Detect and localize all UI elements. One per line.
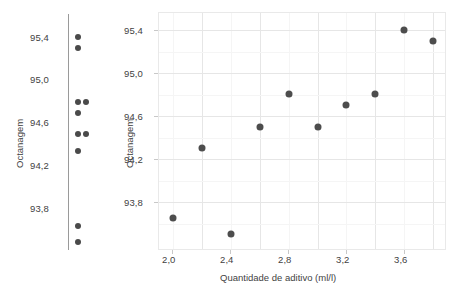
left-ytick-label-93-8: 93,8 bbox=[30, 203, 49, 214]
scatter-point bbox=[170, 215, 177, 222]
gridline-h-major bbox=[159, 116, 445, 117]
left-dot-field bbox=[69, 14, 112, 250]
gridline-h-major bbox=[159, 202, 445, 203]
right-ytick-label-94-6: 94,6 bbox=[124, 111, 143, 122]
left-dot bbox=[75, 239, 81, 245]
scatter-point bbox=[343, 102, 350, 109]
gridline-h-minor bbox=[159, 95, 445, 96]
right-xtick-label-2-0: 2,0 bbox=[162, 254, 176, 265]
left-dot bbox=[83, 99, 89, 105]
figure-root: Octanagem 95,4 95,0 94,6 94,2 93,8 bbox=[0, 0, 459, 293]
left-dot bbox=[75, 45, 81, 51]
right-xtick-label-2-8: 2,8 bbox=[278, 254, 292, 265]
right-xtick-label-3-6: 3,6 bbox=[394, 254, 408, 265]
right-ytick-label-94-2: 94,2 bbox=[124, 154, 143, 165]
gridline-h-major bbox=[159, 159, 445, 160]
left-dotplot-panel: Octanagem 95,4 95,0 94,6 94,2 93,8 bbox=[0, 0, 112, 293]
left-ytick-label-95-0: 95,0 bbox=[30, 74, 49, 85]
right-ytick-label-95-4: 95,4 bbox=[124, 25, 143, 36]
gridline-v-minor bbox=[289, 13, 290, 249]
left-dot bbox=[75, 148, 81, 154]
gridline-v-major bbox=[202, 13, 203, 249]
scatter-point bbox=[286, 91, 293, 98]
gridline-v-major bbox=[433, 13, 434, 249]
left-dot bbox=[75, 99, 81, 105]
gridline-v-minor bbox=[404, 13, 405, 249]
right-xtick-mark bbox=[172, 250, 173, 254]
gridline-v-major bbox=[375, 13, 376, 249]
right-ytick-label-93-8: 93,8 bbox=[124, 197, 143, 208]
gridline-h-minor bbox=[159, 138, 445, 139]
scatter-point bbox=[257, 124, 264, 131]
right-xtick-mark bbox=[230, 250, 231, 254]
gridline-h-minor bbox=[159, 224, 445, 225]
right-xtick-label-2-4: 2,4 bbox=[220, 254, 234, 265]
gridline-h-minor bbox=[159, 181, 445, 182]
left-dot bbox=[75, 34, 81, 40]
left-ytick-label-94-2: 94,2 bbox=[30, 160, 49, 171]
gridline-v-major bbox=[318, 13, 319, 249]
right-xtick-label-3-2: 3,2 bbox=[336, 254, 350, 265]
left-dot bbox=[83, 131, 89, 137]
scatter-plot-area bbox=[158, 12, 446, 250]
left-ytick-label-95-4: 95,4 bbox=[30, 32, 49, 43]
gridline-h-major bbox=[159, 73, 445, 74]
scatter-point bbox=[199, 145, 206, 152]
left-y-axis-title: Octanagem bbox=[14, 119, 25, 168]
scatter-point bbox=[315, 124, 322, 131]
left-dot bbox=[75, 131, 81, 137]
right-ytick-label-95-0: 95,0 bbox=[124, 68, 143, 79]
scatter-point bbox=[372, 91, 379, 98]
scatter-point bbox=[401, 27, 408, 34]
right-xtick-mark bbox=[404, 250, 405, 254]
right-xtick-mark bbox=[346, 250, 347, 254]
gridline-v-minor bbox=[231, 13, 232, 249]
gridline-v-major bbox=[260, 13, 261, 249]
left-ytick-label-94-6: 94,6 bbox=[30, 117, 49, 128]
right-x-axis-title: Quantidade de aditivo (ml/l) bbox=[220, 272, 336, 283]
scatter-point bbox=[228, 231, 235, 238]
gridline-v-minor bbox=[346, 13, 347, 249]
right-xtick-mark bbox=[288, 250, 289, 254]
left-dot bbox=[75, 223, 81, 229]
right-scatter-panel: Octanagem Quantidade de aditivo (ml/l) 9… bbox=[112, 0, 459, 293]
left-dot bbox=[75, 110, 81, 116]
scatter-point bbox=[430, 38, 437, 45]
gridline-h-minor bbox=[159, 52, 445, 53]
